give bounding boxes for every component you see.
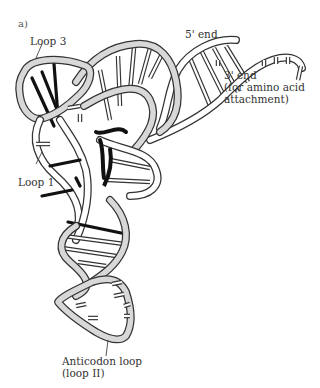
three-prime-note-line1: (for amino acid — [224, 81, 305, 93]
anticodon-leader-line — [106, 340, 108, 356]
loop-3 — [19, 60, 90, 126]
anticodon-loop — [58, 279, 131, 339]
trna-diagram: a) Loop 3 5' end 3' end (for amino acid … — [0, 0, 320, 388]
t-arm-helix — [76, 44, 178, 150]
loop-1-label: Loop 1 — [18, 176, 54, 188]
three-prime-note-line2: attachment) — [224, 93, 289, 105]
three-prime-end-label: 3' end — [224, 69, 257, 81]
loop-3-label: Loop 3 — [30, 35, 66, 47]
five-prime-end-label: 5' end — [185, 28, 218, 40]
anticodon-loop-sublabel: (loop II) — [62, 367, 105, 379]
panel-label: a) — [18, 18, 28, 30]
anticodon-loop-label: Anticodon loop — [62, 355, 142, 367]
trna-structure-graphic — [0, 0, 320, 388]
